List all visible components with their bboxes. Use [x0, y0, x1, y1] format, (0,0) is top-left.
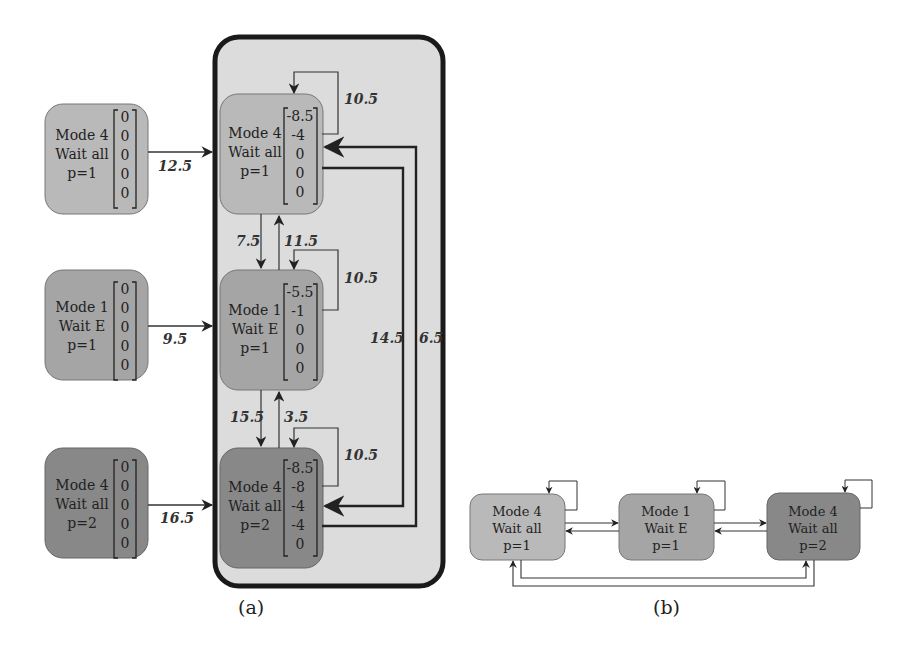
- svg-text:0: 0: [121, 185, 130, 201]
- edge-label: 10.5: [344, 91, 378, 107]
- node-wait-label: Wait all: [228, 144, 282, 160]
- edge-label: 14.5: [370, 330, 404, 346]
- svg-text:0: 0: [296, 360, 305, 376]
- edge-label: 10.5: [344, 447, 378, 463]
- node-p-label: p=2: [799, 538, 827, 553]
- svg-text:-8.5: -8.5: [287, 108, 314, 124]
- b-edge-1-to-3: [521, 560, 806, 578]
- svg-text:0: 0: [121, 109, 130, 125]
- node-mode-label: Mode 4: [228, 125, 281, 141]
- state-node-3: Mode 4 Wait all p=2 -8.5 -8 -4 -4 0: [220, 448, 323, 568]
- node-wait-label: Wait E: [645, 521, 688, 536]
- node-wait-label: Wait all: [228, 498, 282, 514]
- node-wait-label: Wait all: [55, 496, 109, 512]
- edge-label: 7.5: [236, 233, 260, 249]
- node-p-label: p=1: [652, 538, 680, 553]
- b-node-1: Mode 4 Wait all p=1: [470, 494, 565, 560]
- panel-a-caption: (a): [238, 596, 264, 618]
- svg-text:0: 0: [121, 338, 130, 354]
- input-node-3: Mode 4 Wait all p=2 0 0 0 0 0: [45, 448, 148, 558]
- node-p-label: p=2: [67, 515, 97, 531]
- node-mode-label: Mode 1: [55, 299, 108, 315]
- node-wait-label: Wait all: [55, 146, 109, 162]
- panel-b: Mode 4 Wait all p=1 Mode 1 Wait E p=1 Mo…: [470, 480, 872, 618]
- svg-text:0: 0: [296, 536, 305, 552]
- svg-text:-4: -4: [291, 127, 305, 143]
- svg-text:0: 0: [296, 146, 305, 162]
- node-mode-label: Mode 4: [788, 504, 838, 519]
- figure-canvas: Mode 4 Wait all p=1 0 0 0 0 0 Mode 1 Wai…: [0, 0, 910, 653]
- svg-text:0: 0: [121, 281, 130, 297]
- svg-text:-5.5: -5.5: [287, 284, 314, 300]
- svg-text:0: 0: [121, 319, 130, 335]
- svg-text:0: 0: [121, 147, 130, 163]
- edge-label: 9.5: [163, 331, 187, 347]
- state-node-2: Mode 1 Wait E p=1 -5.5 -1 0 0 0: [220, 270, 323, 390]
- edge-label: 10.5: [344, 270, 378, 286]
- node-wait-label: Wait E: [232, 321, 278, 337]
- svg-text:0: 0: [296, 184, 305, 200]
- node-p-label: p=1: [240, 163, 270, 179]
- state-node-1: Mode 4 Wait all p=1 -8.5 -4 0 0 0: [220, 94, 323, 214]
- svg-text:0: 0: [296, 341, 305, 357]
- node-p-label: p=1: [240, 340, 270, 356]
- node-p-label: p=1: [67, 165, 97, 181]
- input-edge-1: 12.5: [148, 152, 212, 174]
- state-vector: 0 0 0 0 0: [121, 109, 130, 201]
- node-wait-label: Wait E: [59, 318, 105, 334]
- edge-label: 6.5: [419, 330, 443, 346]
- b-node-2: Mode 1 Wait E p=1: [619, 494, 714, 560]
- node-mode-label: Mode 4: [492, 504, 542, 519]
- svg-text:-1: -1: [291, 303, 305, 319]
- svg-text:0: 0: [121, 516, 130, 532]
- svg-text:0: 0: [121, 166, 130, 182]
- node-p-label: p=1: [67, 337, 97, 353]
- input-edge-2: 9.5: [148, 326, 212, 347]
- input-node-2: Mode 1 Wait E p=1 0 0 0 0 0: [45, 270, 148, 380]
- panel-a: Mode 4 Wait all p=1 0 0 0 0 0 Mode 1 Wai…: [45, 37, 443, 618]
- svg-text:0: 0: [121, 478, 130, 494]
- svg-text:-4: -4: [291, 517, 305, 533]
- svg-text:0: 0: [121, 535, 130, 551]
- state-vector: 0 0 0 0 0: [121, 459, 130, 551]
- edge-label: 12.5: [158, 158, 192, 174]
- svg-text:0: 0: [121, 128, 130, 144]
- input-edge-3: 16.5: [148, 505, 212, 526]
- node-wait-label: Wait all: [492, 521, 542, 536]
- node-p-label: p=1: [503, 538, 531, 553]
- svg-text:0: 0: [296, 165, 305, 181]
- node-mode-label: Mode 4: [228, 479, 281, 495]
- svg-text:0: 0: [121, 300, 130, 316]
- input-node-1: Mode 4 Wait all p=1 0 0 0 0 0: [45, 104, 148, 214]
- node-mode-label: Mode 1: [641, 504, 691, 519]
- svg-text:-4: -4: [291, 498, 305, 514]
- edge-label: 16.5: [160, 510, 194, 526]
- edge-label: 11.5: [284, 233, 318, 249]
- node-mode-label: Mode 1: [228, 302, 281, 318]
- svg-text:0: 0: [121, 357, 130, 373]
- b-edge-3-to-1: [513, 560, 814, 586]
- node-p-label: p=2: [240, 517, 270, 533]
- edge-label: 3.5: [284, 409, 308, 425]
- edge-label: 15.5: [230, 409, 264, 425]
- svg-text:0: 0: [121, 497, 130, 513]
- node-mode-label: Mode 4: [55, 127, 108, 143]
- node-wait-label: Wait all: [788, 521, 838, 536]
- svg-text:-8: -8: [291, 479, 305, 495]
- svg-text:-8.5: -8.5: [287, 460, 314, 476]
- svg-text:0: 0: [121, 459, 130, 475]
- panel-b-caption: (b): [653, 596, 680, 618]
- node-mode-label: Mode 4: [55, 477, 108, 493]
- state-vector: 0 0 0 0 0: [121, 281, 130, 373]
- b-node-3: Mode 4 Wait all p=2: [767, 493, 860, 560]
- svg-text:0: 0: [296, 322, 305, 338]
